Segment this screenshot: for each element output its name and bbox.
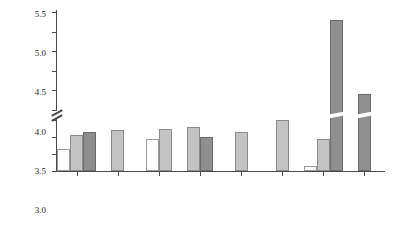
bar: [70, 135, 83, 171]
y-axis-line: [56, 10, 57, 172]
bar: [57, 149, 70, 171]
y-tick-mark: 0.5: [52, 154, 56, 155]
y-tick-label: 5.5: [35, 10, 46, 19]
x-tick-mark: [364, 172, 365, 176]
y-tick-label: 5.0: [35, 49, 46, 58]
bar: [276, 120, 289, 171]
y-tick-label: 4.5: [35, 88, 46, 97]
plot-area: 5.55.04.54.03.53.01.51.00.50: [56, 10, 385, 172]
bar: [83, 132, 96, 171]
x-tick-mark: [118, 172, 119, 176]
y-tick-label: 4.0: [35, 127, 46, 136]
x-tick-mark: [323, 172, 324, 176]
x-axis-line: [56, 171, 385, 172]
bar: [187, 127, 200, 171]
bar: [235, 132, 248, 171]
y-tick-mark: 5.0: [52, 32, 56, 33]
x-tick-mark: [200, 172, 201, 176]
x-tick-mark: [282, 172, 283, 176]
y-tick-mark: 1.0: [52, 137, 56, 138]
y-tick-mark: 4.0: [52, 71, 56, 72]
y-tick-label: 3.0: [35, 206, 46, 215]
y-tick-mark: 5.5: [52, 12, 56, 13]
bar: [358, 94, 371, 171]
bar: [200, 137, 213, 171]
y-tick-mark: 0: [52, 171, 56, 172]
y-tick-label: 3.5: [35, 166, 46, 175]
chart-figure: Plasma Se (μmol/L) 5.55.04.54.03.53.01.5…: [0, 0, 405, 225]
bar: [146, 139, 159, 171]
bar: [304, 166, 317, 171]
bar: [330, 20, 343, 171]
x-tick-mark: [77, 172, 78, 176]
y-tick-mark: 3.5: [52, 90, 56, 91]
x-tick-mark: [159, 172, 160, 176]
bar: [111, 130, 124, 171]
y-tick-mark: 4.5: [52, 51, 56, 52]
bar: [317, 139, 330, 171]
bar: [159, 129, 172, 172]
x-tick-mark: [241, 172, 242, 176]
